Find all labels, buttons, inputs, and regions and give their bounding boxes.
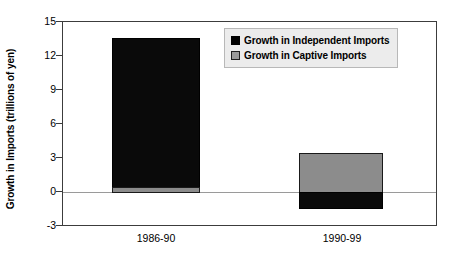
y-tick-label: 3 [34, 152, 56, 162]
bar-chart: Growth in Imports (trillions of yen) 15 … [0, 0, 452, 258]
y-tick-label: 9 [34, 84, 56, 94]
legend-item-captive: Growth in Captive Imports [231, 48, 389, 63]
legend-label-independent: Growth in Independent Imports [244, 35, 389, 46]
gray-square-icon [231, 51, 240, 60]
x-category-label-1990-99: 1990-99 [298, 232, 386, 244]
legend-item-independent: Growth in Independent Imports [231, 33, 389, 48]
y-tick-label: -3 [34, 220, 56, 230]
chart-legend: Growth in Independent Imports Growth in … [224, 28, 398, 68]
y-tick-label: 12 [34, 50, 56, 60]
bar-segment-independent-1986-90 [112, 38, 200, 188]
bar-segment-captive-1990-99 [299, 153, 383, 193]
y-axis-tick-labels: 15 12 9 6 3 0 -3 [30, 0, 56, 258]
bar-segment-captive-1986-90 [112, 187, 200, 193]
y-tick-label: 15 [34, 16, 56, 26]
legend-label-captive: Growth in Captive Imports [244, 50, 367, 61]
x-category-label-1986-90: 1986-90 [111, 232, 201, 244]
y-tick-label: 0 [34, 186, 56, 196]
y-axis-title: Growth in Imports (trillions of yen) [0, 0, 20, 258]
plot-area: Growth in Independent Imports Growth in … [62, 21, 437, 226]
y-tick-label: 6 [34, 118, 56, 128]
black-square-icon [231, 36, 240, 45]
bar-segment-independent-1990-99 [299, 192, 383, 209]
